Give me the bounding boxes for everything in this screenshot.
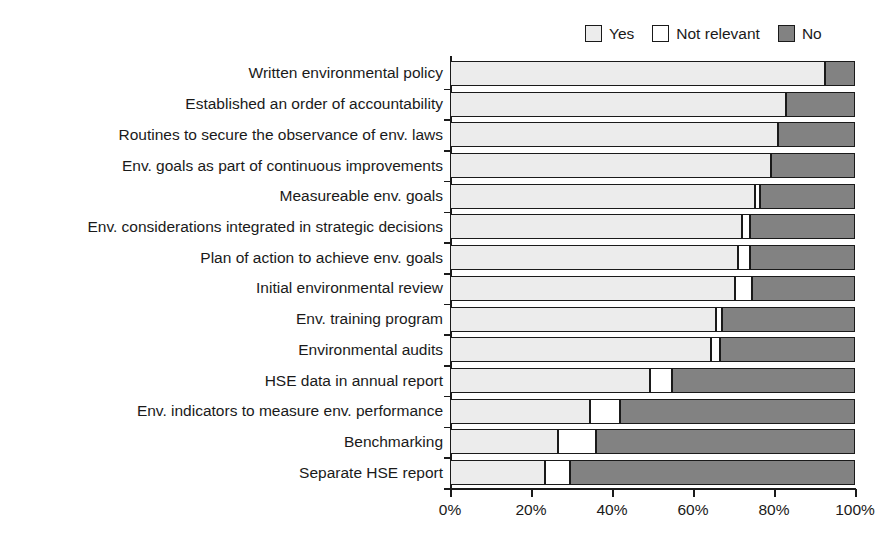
bar-segment-no[interactable] [720,337,855,362]
x-axis-tick-label: 20% [501,500,561,519]
bar-row[interactable] [450,399,855,424]
bar-segment-no[interactable] [620,399,855,424]
bar-row[interactable] [450,368,855,393]
bar-segment-yes[interactable] [450,184,755,209]
bar-segment-yes[interactable] [450,399,590,424]
bar-segment-not-relevant[interactable] [742,214,750,239]
bar-segment-no[interactable] [771,153,855,178]
category-label: Env. indicators to measure env. performa… [3,402,443,420]
category-label: HSE data in annual report [3,372,443,390]
x-axis-tick [855,489,857,497]
x-axis-tick-label: 0% [420,500,480,519]
category-label: Plan of action to achieve env. goals [3,249,443,267]
bar-segment-yes[interactable] [450,122,778,147]
bar-segment-yes[interactable] [450,460,545,485]
bar-row[interactable] [450,153,855,178]
x-axis-tick [774,489,776,497]
bar-segment-not-relevant[interactable] [558,429,596,454]
category-label: Initial environmental review [3,279,443,297]
bar-segment-yes[interactable] [450,92,786,117]
bar-segment-not-relevant[interactable] [590,399,620,424]
legend-label: Not relevant [676,25,760,42]
category-label: Environmental audits [3,341,443,359]
x-axis-tick-label: 100% [825,500,885,519]
bar-segment-yes[interactable] [450,307,716,332]
x-axis-tick [450,489,452,497]
x-axis-line [450,488,856,490]
bar-row[interactable] [450,245,855,270]
bar-segment-no[interactable] [750,245,855,270]
bar-segment-no[interactable] [596,429,855,454]
legend-entry[interactable]: Yes [585,25,634,42]
x-axis-tick [612,489,614,497]
x-axis-tick-label: 60% [663,500,723,519]
bar-segment-not-relevant[interactable] [738,245,750,270]
bar-row[interactable] [450,214,855,239]
bar-segment-yes[interactable] [450,61,825,86]
chart-legend: YesNot relevantNo [585,22,822,44]
bar-segment-no[interactable] [722,307,855,332]
legend-swatch-icon [652,25,669,42]
x-axis-tick [531,489,533,497]
bar-row[interactable] [450,184,855,209]
category-label: Env. training program [3,310,443,328]
category-label: Routines to secure the observance of env… [3,126,443,144]
legend-entry[interactable]: Not relevant [652,25,760,42]
bar-segment-yes[interactable] [450,153,771,178]
x-axis-tick-label: 40% [582,500,642,519]
bar-segment-no[interactable] [570,460,855,485]
bar-row[interactable] [450,307,855,332]
x-axis-tick [693,489,695,497]
bar-segment-no[interactable] [760,184,855,209]
category-label: Written environmental policy [3,64,443,82]
x-axis-tick-label: 80% [744,500,804,519]
bar-segment-yes[interactable] [450,368,650,393]
bar-segment-no[interactable] [778,122,855,147]
legend-swatch-icon [585,25,602,42]
bar-segment-no[interactable] [752,276,855,301]
category-label: Env. goals as part of continuous improve… [3,157,443,175]
bar-row[interactable] [450,276,855,301]
bar-segment-no[interactable] [825,61,855,86]
bar-segment-not-relevant[interactable] [735,276,752,301]
category-label: Env. considerations integrated in strate… [3,218,443,236]
bar-row[interactable] [450,92,855,117]
bar-segment-yes[interactable] [450,214,742,239]
bar-row[interactable] [450,429,855,454]
bar-segment-yes[interactable] [450,276,735,301]
category-label: Separate HSE report [3,464,443,482]
bar-row[interactable] [450,61,855,86]
bar-segment-not-relevant[interactable] [650,368,672,393]
bar-row[interactable] [450,337,855,362]
legend-label: No [802,25,822,42]
plot-area [450,58,855,488]
bar-segment-no[interactable] [672,368,855,393]
bar-segment-not-relevant[interactable] [545,460,570,485]
bar-segment-yes[interactable] [450,429,558,454]
stacked-bar-chart: YesNot relevantNo Written environmental … [0,0,895,537]
legend-swatch-icon [778,25,795,42]
bar-segment-no[interactable] [786,92,855,117]
category-label: Measureable env. goals [3,187,443,205]
bar-row[interactable] [450,460,855,485]
bar-segment-not-relevant[interactable] [711,337,720,362]
bar-segment-yes[interactable] [450,337,711,362]
legend-label: Yes [609,25,634,42]
bar-row[interactable] [450,122,855,147]
category-label: Benchmarking [3,433,443,451]
category-label: Established an order of accountability [3,95,443,113]
bar-segment-yes[interactable] [450,245,738,270]
legend-entry[interactable]: No [778,25,822,42]
bar-segment-no[interactable] [750,214,855,239]
